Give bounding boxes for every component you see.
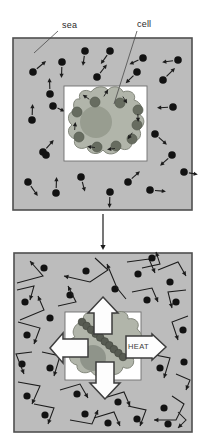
cell-top — [64, 86, 147, 161]
transition-arrow — [100, 214, 105, 250]
organelle — [74, 132, 84, 142]
cell-label: cell — [137, 20, 151, 29]
organelle — [72, 107, 82, 117]
organelle — [133, 105, 143, 115]
heat-label: HEAT — [124, 342, 153, 352]
nucleus — [80, 106, 112, 138]
organelle — [111, 141, 121, 151]
organelle — [132, 120, 142, 130]
organelle — [115, 98, 125, 108]
sea-label: sea — [62, 21, 77, 30]
diagram-canvas — [0, 0, 205, 444]
organelle — [90, 97, 100, 107]
textbook-figure: sea cell HEAT — [0, 0, 205, 444]
